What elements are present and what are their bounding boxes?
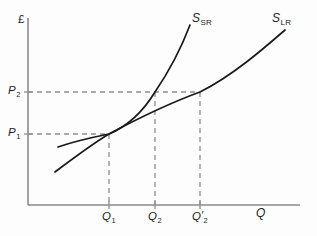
quantity-label-q2-prime: Q′2	[192, 211, 207, 223]
supply-curve-diagram: £ Q P2 P1 Q1 Q2 Q′2 SSR SLR	[0, 0, 317, 236]
curve-label-s-lr-base: S	[272, 11, 280, 25]
quantity-label-q2-prime-base: Q	[192, 210, 201, 222]
diagram-canvas	[0, 0, 317, 236]
quantity-label-q2-prime-mark: ′	[201, 209, 203, 221]
quantity-label-q1: Q1	[102, 211, 115, 223]
price-label-p1-sub: 1	[16, 132, 20, 141]
curve-s-sr	[58, 25, 190, 147]
curve-label-s-sr-base: S	[192, 11, 200, 25]
curve-label-s-sr: SSR	[192, 12, 212, 24]
x-axis-label: Q	[256, 207, 265, 219]
quantity-label-q1-sub: 1	[111, 216, 115, 225]
price-label-p1-base: P	[8, 126, 16, 138]
quantity-label-q2-prime-sub: 2	[204, 216, 208, 225]
price-label-p2-sub: 2	[16, 90, 20, 99]
quantity-label-q1-base: Q	[102, 210, 111, 222]
price-label-p1: P1	[8, 127, 20, 139]
curve-label-s-sr-sub: SR	[201, 18, 213, 27]
quantity-label-q2-base: Q	[148, 210, 157, 222]
quantity-label-q2: Q2	[148, 211, 161, 223]
curve-s-lr	[55, 30, 285, 172]
y-axis-label: £	[18, 14, 24, 26]
price-label-p2: P2	[8, 85, 20, 97]
curve-label-s-lr: SLR	[272, 12, 291, 24]
price-label-p2-base: P	[8, 84, 16, 96]
quantity-label-q2-sub: 2	[157, 216, 161, 225]
curve-label-s-lr-sub: LR	[281, 18, 292, 27]
